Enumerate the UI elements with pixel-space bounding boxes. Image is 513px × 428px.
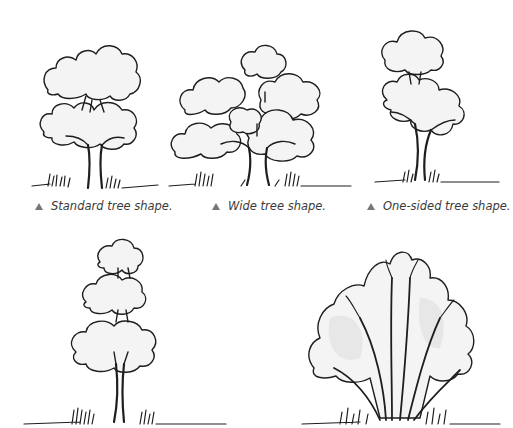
caption-text: Standard tree shape. bbox=[51, 199, 173, 213]
tiered-tree-illustration bbox=[20, 232, 230, 428]
vase-tree-illustration bbox=[300, 238, 505, 428]
tree-sketch-icon bbox=[300, 238, 505, 428]
caption-text: Wide tree shape. bbox=[228, 199, 326, 213]
tree-sketch-icon bbox=[165, 40, 355, 190]
triangle-icon bbox=[212, 203, 220, 210]
caption-standard-tree: Standard tree shape. bbox=[35, 199, 173, 213]
standard-tree-illustration bbox=[30, 20, 160, 190]
tree-sketch-icon bbox=[30, 20, 160, 190]
caption-wide-tree: Wide tree shape. bbox=[212, 199, 326, 213]
tree-sketch-icon bbox=[365, 20, 505, 190]
wide-tree-illustration bbox=[165, 40, 355, 190]
caption-one-sided-tree: One-sided tree shape. bbox=[367, 199, 510, 213]
triangle-icon bbox=[367, 203, 375, 210]
one-sided-tree-illustration bbox=[365, 20, 505, 190]
tree-sketch-icon bbox=[20, 232, 230, 428]
caption-text: One-sided tree shape. bbox=[383, 199, 510, 213]
triangle-icon bbox=[35, 203, 43, 210]
